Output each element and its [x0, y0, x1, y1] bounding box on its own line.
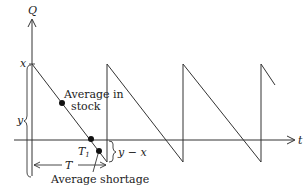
q-axis-label: Q	[28, 4, 37, 17]
svg-text:T1: T1	[78, 145, 90, 159]
stockout-point-marker	[88, 136, 94, 142]
q-axis: Q	[28, 4, 37, 176]
average-shortage-marker	[96, 148, 102, 154]
t-axis-label: t	[298, 134, 303, 147]
t-axis: t	[14, 134, 303, 147]
stockout-time-label: T1	[78, 145, 90, 159]
shortage-brace-label: y − x	[117, 146, 147, 159]
peak-label: x	[20, 57, 27, 70]
inventory-sawtooth-diagram: Q t x y y − x T T1	[0, 0, 308, 188]
height-brace-label: y	[16, 114, 24, 127]
sawtooth-curve	[32, 64, 275, 162]
stockout-time-subscript: 1	[85, 151, 89, 159]
average-shortage-leader	[93, 154, 98, 172]
average-in-stock-label-line2: stock	[71, 100, 101, 113]
average-in-stock-annotation: Average in stock	[63, 88, 124, 113]
average-shortage-label: Average shortage	[50, 173, 149, 186]
shortage-brace: y − x	[109, 141, 147, 162]
period-label: T	[65, 159, 74, 172]
height-brace: y	[16, 65, 31, 177]
